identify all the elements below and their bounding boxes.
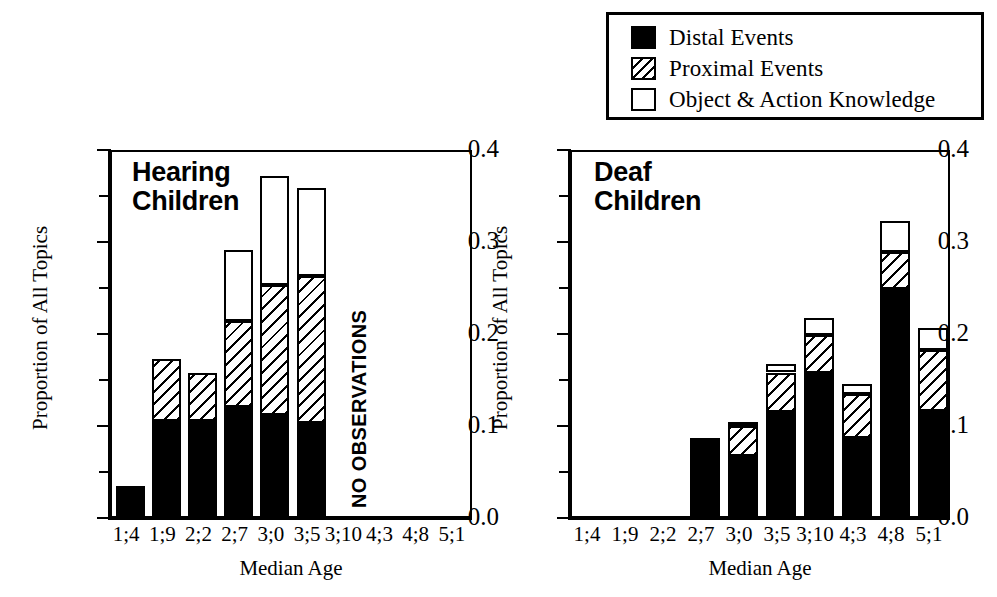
bar-segment-object-action	[728, 422, 758, 426]
y-axis-minor-tick	[559, 195, 569, 197]
bar-segment-distal	[188, 421, 217, 516]
bar-segment-proximal	[918, 350, 948, 411]
bar-segment-distal	[297, 423, 326, 516]
bar-segment-proximal	[728, 426, 758, 456]
y-axis-minor-tick	[559, 379, 569, 381]
x-axis-tick-label: 1;4	[574, 524, 601, 545]
x-axis-tick-label: 1;9	[149, 524, 176, 545]
y-axis-minor-tick	[559, 471, 569, 473]
x-axis-tick-label: 3;0	[726, 524, 753, 545]
y-axis-tick-label: 0.4	[887, 136, 969, 161]
bar-segment-proximal	[260, 285, 289, 415]
bar-segment-distal	[152, 421, 181, 516]
panel-title-line1: Deaf	[594, 158, 701, 187]
bar-segment-distal	[766, 412, 796, 516]
bar-segment-proximal	[766, 373, 796, 413]
x-axis-tick-label: 5;1	[438, 524, 465, 545]
x-axis-tick-label: 3;10	[325, 524, 362, 545]
stacked-bar	[152, 359, 181, 516]
bar-segment-distal	[842, 438, 872, 516]
x-axis-tick-label: 4;3	[366, 524, 393, 545]
bar-segment-proximal	[152, 359, 181, 422]
bar-segment-distal	[728, 456, 758, 516]
y-axis-tick-label: 0.1	[887, 412, 969, 437]
y-axis-tick-label: 0.3	[887, 228, 969, 253]
x-axis-label-right: Median Age	[568, 556, 952, 581]
y-axis-minor-tick	[99, 195, 109, 197]
y-axis-major-tick	[97, 149, 109, 151]
x-axis-tick-label: 2;2	[650, 524, 677, 545]
panel-title-hearing: Hearing Children	[132, 158, 239, 215]
y-axis-major-tick	[97, 241, 109, 243]
y-axis-minor-tick	[559, 287, 569, 289]
y-axis-major-tick	[557, 517, 569, 519]
y-axis-label-left: Proportion of All Topics	[28, 226, 53, 430]
y-axis-tick-label: 0.2	[887, 320, 969, 345]
bar-segment-proximal	[804, 335, 834, 374]
stacked-bar	[880, 221, 910, 516]
x-axis-tick-label: 1;9	[612, 524, 639, 545]
y-axis-minor-tick	[99, 379, 109, 381]
x-axis-tick-label: 4;8	[402, 524, 429, 545]
y-axis-major-tick	[557, 333, 569, 335]
bar-segment-proximal	[224, 321, 253, 407]
x-axis-tick-label: 3;10	[796, 524, 833, 545]
y-axis-major-tick	[97, 517, 109, 519]
x-axis-tick-label: 2;7	[688, 524, 715, 545]
bar-segment-proximal	[188, 373, 217, 421]
stacked-bar	[188, 373, 217, 516]
stacked-bar	[690, 438, 720, 516]
x-axis-tick-labels-left: 1;41;92;22;73;03;53;104;34;85;1	[108, 524, 474, 554]
bar-segment-object-action	[297, 188, 326, 276]
y-axis-major-tick	[557, 425, 569, 427]
y-axis-major-tick	[97, 333, 109, 335]
y-axis-label-right: Proportion of All Topics	[488, 226, 513, 430]
panel-title-line2: Children	[132, 187, 239, 216]
stacked-bar	[260, 176, 289, 516]
bar-segment-object-action	[842, 384, 872, 393]
x-axis-tick-label: 2;7	[221, 524, 248, 545]
panel-hearing-children: Proportion of All Topics 0.00.10.20.30.4…	[0, 0, 499, 597]
bar-segment-distal	[804, 373, 834, 516]
x-axis-tick-labels-right: 1;41;92;22;73;03;53;104;34;85;1	[568, 524, 952, 554]
stacked-bar	[224, 250, 253, 516]
x-axis-tick-label: 3;0	[257, 524, 284, 545]
stacked-bar	[766, 364, 796, 516]
no-observations-annotation: NO OBSERVATIONS	[348, 310, 371, 508]
panel-deaf-children: Proportion of All Topics 0.00.10.20.30.4…	[470, 0, 969, 597]
x-axis-tick-label: 4;8	[878, 524, 905, 545]
y-axis-major-tick	[557, 149, 569, 151]
panel-title-line2: Children	[594, 187, 701, 216]
stacked-bar	[728, 424, 758, 516]
stacked-bar	[842, 384, 872, 516]
bar-segment-object-action	[260, 176, 289, 285]
x-axis-tick-label: 3;5	[764, 524, 791, 545]
bar-segment-proximal	[842, 394, 872, 438]
x-axis-tick-label: 2;2	[185, 524, 212, 545]
bar-segment-object-action	[224, 250, 253, 321]
stacked-bar	[804, 318, 834, 516]
x-axis-label-left: Median Age	[108, 556, 474, 581]
x-axis-tick-label: 1;4	[113, 524, 140, 545]
bar-segment-proximal	[297, 276, 326, 423]
bar-segment-object-action	[766, 364, 796, 372]
stacked-bar	[297, 188, 326, 516]
bar-segment-proximal	[880, 252, 910, 289]
bar-segment-distal	[260, 415, 289, 516]
bar-segment-distal	[116, 486, 145, 516]
panel-title-deaf: Deaf Children	[594, 158, 701, 215]
bar-segment-distal	[224, 407, 253, 516]
x-axis-tick-label: 3;5	[294, 524, 321, 545]
y-axis-minor-tick	[99, 471, 109, 473]
x-axis-tick-label: 4;3	[840, 524, 867, 545]
figure-stacked-bar-charts: Distal Events Proximal Events Object & A…	[0, 0, 997, 597]
bar-segment-object-action	[804, 318, 834, 335]
panel-title-line1: Hearing	[132, 158, 239, 187]
y-axis-minor-tick	[99, 287, 109, 289]
y-axis-major-tick	[557, 241, 569, 243]
y-axis-major-tick	[97, 425, 109, 427]
stacked-bar	[116, 486, 145, 516]
x-axis-tick-label: 5;1	[916, 524, 943, 545]
bar-segment-distal	[690, 438, 720, 516]
